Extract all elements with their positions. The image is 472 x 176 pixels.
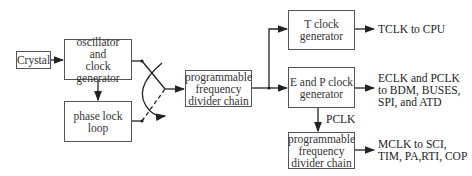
output-eclk-line2: to BDM, BUSES, (378, 84, 460, 96)
output-eclk-pclk: ECLK and PCLK to BDM, BUSES, SPI, and AT… (378, 72, 460, 108)
block-tclock-line2: generator (300, 30, 343, 42)
output-mclk-line1: MCLK to SCI, (378, 138, 467, 150)
block-tclock-line1: T clock (304, 18, 339, 30)
output-eclk-line1: ECLK and PCLK (378, 72, 460, 84)
output-tclk-line1: TCLK to CPU (378, 23, 445, 35)
block-divider-sub-line3: divider chain (291, 157, 351, 169)
block-divider-main-line3: divider chain (188, 95, 248, 107)
block-epclock-line2: generator (300, 88, 343, 100)
block-divider-main-line1: programmable (185, 71, 252, 83)
block-programmable-divider-sub: programmable frequency divider chain (288, 132, 355, 169)
block-divider-sub-line2: frequency (299, 145, 345, 157)
block-oscillator-line1: oscillator (77, 36, 120, 48)
block-oscillator-line3: clock generator (65, 60, 131, 84)
output-mclk: MCLK to SCI, TIM, PA,RTI, COP (378, 138, 467, 162)
block-crystal: Crystal (16, 51, 51, 69)
switch-solid-line (142, 61, 165, 89)
block-divider-main-line2: frequency (196, 83, 242, 95)
output-tclk: TCLK to CPU (378, 23, 445, 35)
block-ep-clock-generator: E and P clock generator (288, 67, 355, 108)
block-pll-line2: loop (88, 122, 108, 134)
block-t-clock-generator: T clock generator (288, 10, 355, 50)
block-pll-line1: phase lock (74, 110, 123, 122)
arrow-to-tclock (269, 29, 287, 88)
block-programmable-divider-main: programmable frequency divider chain (185, 70, 252, 107)
switch-arc (142, 63, 165, 116)
block-crystal-label: Crystal (17, 54, 50, 66)
edge-label-pclk: PCLK (326, 113, 355, 125)
block-oscillator: oscillator and clock generator (64, 39, 132, 80)
block-epclock-line1: E and P clock (290, 76, 353, 88)
output-eclk-line3: SPI, and ATD (378, 96, 460, 108)
block-phase-lock-loop: phase lock loop (64, 101, 132, 142)
block-divider-sub-line1: programmable (288, 133, 355, 145)
output-mclk-line2: TIM, PA,RTI, COP (378, 150, 467, 162)
block-oscillator-line2: and (90, 48, 107, 60)
